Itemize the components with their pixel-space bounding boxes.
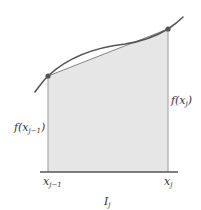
x-left-label: xj−1: [43, 176, 62, 189]
interval-label: Ij: [104, 196, 111, 209]
x-left-sub: j−1: [49, 181, 62, 189]
right-point-marker: [165, 26, 170, 31]
x-right-sub: j: [170, 181, 172, 189]
f-left-sub: j−1: [29, 127, 42, 135]
f-left-base: f(x: [14, 121, 29, 134]
x-right-label: xj: [164, 176, 172, 189]
f-right-close: ): [188, 94, 192, 107]
trapezoid-diagram: f(xj−1) f(xj) xj−1 xj Ij: [0, 0, 201, 210]
interval-sub: j: [108, 201, 110, 209]
trapezoid-fill: [48, 29, 168, 172]
f-right-label: f(xj): [171, 95, 192, 108]
f-right-base: f(x: [171, 94, 186, 107]
f-left-label: f(xj−1): [14, 122, 45, 135]
f-left-close: ): [41, 121, 45, 134]
left-point-marker: [45, 73, 50, 78]
